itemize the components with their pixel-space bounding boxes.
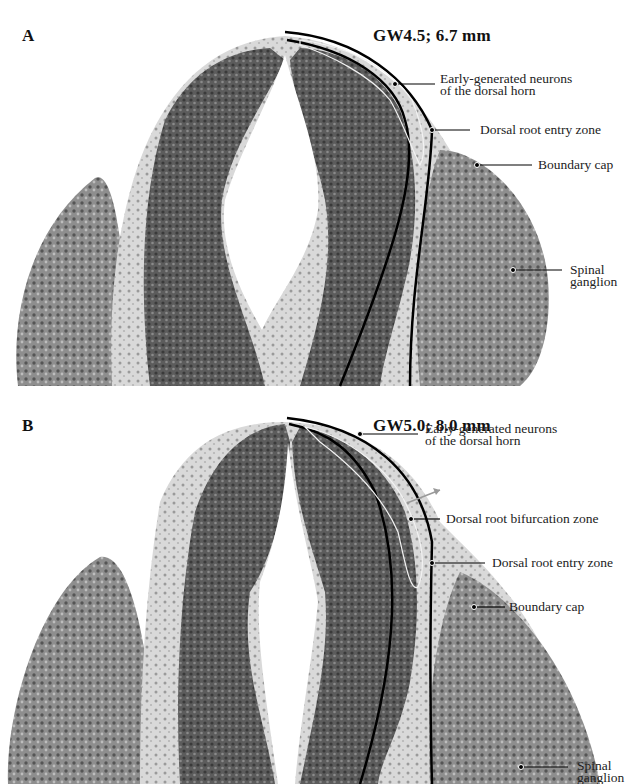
label-bifurcation-zone-b: Dorsal root bifurcation zone [446,513,599,525]
label-entry-zone-b: Dorsal root entry zone [492,557,613,569]
panel-b: B GW5.0; 8.0 mm Early-generated neurons … [0,392,634,784]
micrograph-a [0,0,634,392]
panel-letter-b: B [22,416,33,436]
panel-a: A GW4.5; 6.7 mm Early-generated neurons … [0,0,634,392]
right-ganglion [417,150,549,386]
panel-title-a: GW4.5; 6.7 mm [373,26,491,46]
panel-letter-a: A [22,26,34,46]
label-ganglion-a: Spinal ganglion [570,264,617,288]
label-boundary-cap-b: Boundary cap [509,601,584,613]
label-early-neurons-b: Early-generated neurons of the dorsal ho… [425,423,557,447]
label-boundary-cap-a: Boundary cap [538,159,613,171]
label-entry-zone-a: Dorsal root entry zone [480,124,601,136]
micrograph-b [0,392,634,784]
left-ganglion [8,557,158,784]
label-early-neurons-a: Early-generated neurons of the dorsal ho… [440,73,572,97]
label-ganglion-b: Spinal ganglion [577,760,624,784]
